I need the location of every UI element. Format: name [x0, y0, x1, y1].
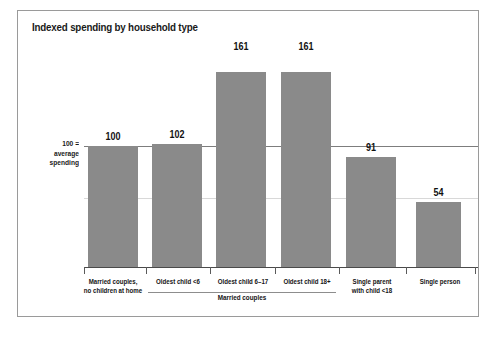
bar-married-no-children [88, 146, 138, 267]
bar-value-label: 161 [284, 41, 329, 52]
bar-value-label: 54 [418, 187, 459, 198]
x-axis-baseline [84, 267, 478, 268]
bar-oldest-child-18-plus [281, 72, 331, 267]
category-label-line: Single person [400, 277, 480, 286]
axis-tick [339, 267, 340, 274]
axis-tick [275, 267, 276, 274]
bar-single-parent [346, 157, 396, 267]
chart-frame: Indexed spending by household type 100 =… [17, 10, 479, 317]
axis-tick [146, 267, 147, 274]
bar-value-label: 102 [155, 129, 200, 140]
axis-tick [84, 267, 85, 274]
bar-oldest-child-6-17 [216, 72, 266, 267]
axis-tick [210, 267, 211, 274]
x-axis-category-label: Single person [400, 277, 480, 286]
bar-oldest-child-under-6 [152, 144, 202, 267]
bar-value-label: 161 [219, 41, 264, 52]
bar-value-label: 100 [91, 131, 136, 142]
axis-tick [406, 267, 407, 274]
axis-tick [475, 267, 476, 274]
bar-value-label: 91 [349, 142, 394, 153]
group-bracket-line [148, 292, 336, 293]
category-label-line: no children at home [69, 286, 156, 295]
bar-single-person [416, 202, 461, 267]
plot-area: 100 102 161 161 91 54 Married couples, n… [18, 11, 478, 316]
category-label-line: with child <18 [331, 286, 413, 295]
group-bracket-label: Married couples [155, 294, 330, 301]
